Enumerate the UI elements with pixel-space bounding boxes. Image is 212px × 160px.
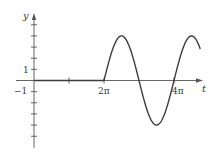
y-axis-label: y [22,10,29,21]
t-axis-label: t [202,83,207,94]
x-tick-label-4pi: 4π [172,86,184,96]
x-tick-label-2pi: 2π [98,86,110,96]
y-tick-label-neg1: −1 [14,86,27,96]
y-axis-arrow-icon [32,13,36,20]
chart-plot: y t 1 −1 2π 4π [0,0,212,160]
y-tick-label-1: 1 [23,65,29,75]
